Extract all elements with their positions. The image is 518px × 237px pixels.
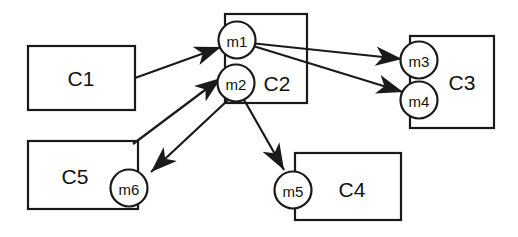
component-diagram: C1C2C3C4C5m1m2m3m4m5m6 xyxy=(0,0,518,237)
port-label-m6: m6 xyxy=(119,181,140,198)
port-label-m5: m5 xyxy=(283,183,304,200)
component-label-c1: C1 xyxy=(68,67,95,90)
port-label-m1: m1 xyxy=(227,33,248,50)
component-label-c5: C5 xyxy=(62,165,89,188)
component-label-c2: C2 xyxy=(264,72,291,95)
component-label-c3: C3 xyxy=(449,71,476,94)
connector-c1-to-m1[interactable] xyxy=(135,47,221,78)
port-label-m2: m2 xyxy=(226,76,247,93)
diagram-canvas: C1C2C3C4C5m1m2m3m4m5m6 xyxy=(0,0,518,237)
connector-c5-to-m2[interactable] xyxy=(133,78,221,144)
port-label-m4: m4 xyxy=(409,93,430,110)
connector-m2-to-m6[interactable] xyxy=(151,100,228,172)
connector-m2-to-m5[interactable] xyxy=(243,98,284,170)
component-label-c4: C4 xyxy=(339,178,366,201)
port-label-m3: m3 xyxy=(409,53,430,70)
